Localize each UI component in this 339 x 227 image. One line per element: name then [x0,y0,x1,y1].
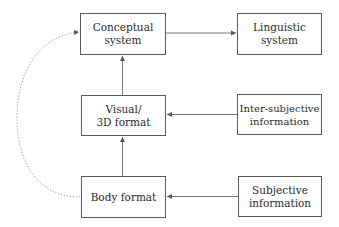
diagram: Conceptual system Linguistic system Visu… [0,0,339,227]
node-label-line2: system [93,34,154,47]
node-label-line2: system [253,34,306,47]
node-label-line2: 3D format [96,116,150,129]
node-body-format: Body format [81,176,166,218]
node-subjective-information: Subjective information [238,176,322,217]
node-label-line1: Conceptual [93,21,154,34]
node-visual-3d-format: Visual/ 3D format [81,95,166,136]
node-label-line1: Inter-subjective [240,102,320,115]
node-linguistic-system: Linguistic system [237,13,322,55]
node-label-line1: Subjective [249,184,311,197]
node-label-line1: Linguistic [253,21,306,34]
node-label-line2: information [249,197,311,210]
node-label-line2: information [240,115,320,128]
node-label-line1: Visual/ [96,103,150,116]
node-label-line1: Body format [91,191,157,204]
node-inter-subjective-information: Inter-subjective information [237,94,322,135]
node-conceptual-system: Conceptual system [80,13,166,55]
edge-body-to-conceptual-dotted [17,32,80,197]
